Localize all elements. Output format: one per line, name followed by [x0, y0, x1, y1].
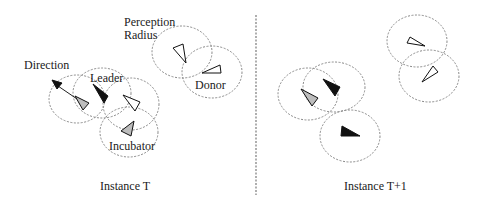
- swarm-diagram: [0, 0, 481, 203]
- label-donor: Donor: [195, 79, 226, 92]
- panel-instance-t-plus-1: [278, 15, 459, 162]
- caption-instance-t-plus-1: Instance T+1: [344, 180, 407, 193]
- agent-t1-grey: [301, 89, 318, 106]
- agent-t1-black-bottom: [341, 126, 360, 136]
- label-direction: Direction: [24, 59, 69, 72]
- label-perception-radius: Perception Radius: [124, 16, 175, 42]
- agent-white-middle: [123, 95, 140, 111]
- label-incubator: Incubator: [109, 140, 155, 153]
- agent-t1-white-top: [407, 37, 425, 46]
- label-leader: Leader: [90, 72, 123, 85]
- agent-grey-direction: [75, 96, 89, 110]
- agent-t1-black-upper: [323, 79, 340, 96]
- caption-instance-t: Instance T: [100, 180, 150, 193]
- agent-t1-white-lower: [422, 66, 438, 82]
- agent-white-perception: [173, 44, 186, 63]
